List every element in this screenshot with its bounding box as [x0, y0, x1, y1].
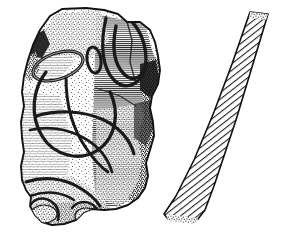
- artifact-illustration: Carved stone fragment with cross-section…: [0, 0, 283, 235]
- basal-lobe-right: [75, 208, 97, 224]
- illustration-canvas: Carved stone fragment with cross-section…: [0, 0, 283, 235]
- stone-fragment: [0, 0, 180, 235]
- basal-lobe-left: [31, 205, 57, 223]
- section-profile: [150, 0, 283, 235]
